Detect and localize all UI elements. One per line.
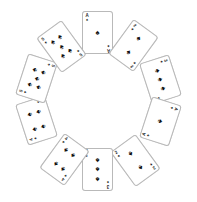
spade-pip-icon: ♠ bbox=[126, 149, 134, 157]
playing-card-four-of-spades[interactable]: 4♠4♠♠♠♠♠ bbox=[15, 95, 58, 145]
spade-pip-icon: ♠ bbox=[35, 84, 43, 92]
spade-pip-icon: ♠ bbox=[66, 47, 74, 55]
spade-pip-icon: ♠ bbox=[160, 85, 168, 93]
card-pip-area: ♠♠♠ bbox=[88, 154, 107, 185]
spade-pip-icon: ♠ bbox=[154, 67, 162, 75]
playing-card-five-of-spades[interactable]: 5♠5♠♠♠♠♠♠ bbox=[15, 53, 58, 103]
spade-pip-icon: ♠ bbox=[59, 52, 67, 60]
spade-pip-icon: ♠ bbox=[31, 126, 39, 134]
spade-pip-icon: ♠ bbox=[95, 176, 101, 182]
spade-pip-icon: ♠ bbox=[95, 30, 101, 36]
spade-pip-icon: ♠ bbox=[35, 108, 43, 116]
playing-card-ace-of-spades[interactable]: A♠A♠♠ bbox=[82, 11, 113, 54]
spade-pip-icon: ♠ bbox=[59, 165, 67, 173]
spade-pip-icon: ♠ bbox=[95, 167, 101, 173]
spade-pip-icon: ♠ bbox=[56, 33, 64, 41]
spade-pip-icon: ♠ bbox=[49, 38, 57, 46]
spade-pip-icon: ♠ bbox=[157, 118, 165, 126]
card-pip-area: ♠ bbox=[88, 17, 107, 48]
card-pip-area: ♠ bbox=[147, 104, 175, 139]
card-pip-area: ♠♠♠ bbox=[147, 62, 175, 97]
spade-pip-icon: ♠ bbox=[134, 34, 142, 42]
spade-pip-icon: ♠ bbox=[124, 48, 132, 56]
card-pip-area: ♠♠♠♠♠ bbox=[23, 61, 51, 96]
card-pip-area: ♠♠ bbox=[117, 27, 151, 63]
card-circle-canvas: A♠A♠♠2♠2♠♠♠3♠3♠♠♠♠A♠A♠♠2♠2♠♠♠3♠3♠♠♠♠4♠4♠… bbox=[0, 0, 197, 202]
card-pip-area: ♠♠♠♠ bbox=[48, 141, 82, 177]
spade-pip-icon: ♠ bbox=[62, 146, 70, 154]
card-pip-area: ♠♠♠♠♠ bbox=[45, 28, 79, 64]
spade-pip-icon: ♠ bbox=[69, 151, 77, 159]
playing-card-three-of-spades[interactable]: 3♠3♠♠♠♠ bbox=[139, 54, 182, 104]
spade-pip-icon: ♠ bbox=[95, 157, 101, 163]
spade-pip-icon: ♠ bbox=[157, 76, 165, 84]
spade-pip-icon: ♠ bbox=[40, 69, 48, 77]
spade-pip-icon: ♠ bbox=[33, 75, 41, 83]
spade-pip-icon: ♠ bbox=[57, 42, 65, 50]
spade-pip-icon: ♠ bbox=[136, 163, 144, 171]
spade-pip-icon: ♠ bbox=[52, 160, 60, 168]
spade-pip-icon: ♠ bbox=[26, 111, 34, 119]
card-pip-area: ♠♠ bbox=[119, 142, 153, 178]
playing-card-ace-of-spades[interactable]: A♠A♠♠ bbox=[139, 96, 182, 146]
spade-pip-icon: ♠ bbox=[40, 123, 48, 131]
card-pip-area: ♠♠♠♠ bbox=[23, 103, 51, 138]
